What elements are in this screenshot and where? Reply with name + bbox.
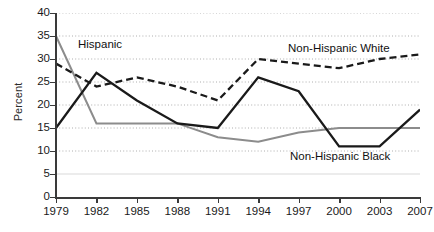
x-axis-tick (96, 198, 97, 203)
series-line-non-hispanic-black (56, 73, 420, 147)
x-tick-label: 1997 (276, 206, 322, 218)
y-tick-label: 0 (24, 191, 50, 203)
y-tick-label: 35 (24, 30, 50, 42)
y-axis-tick (50, 174, 55, 175)
y-tick-label: 20 (24, 99, 50, 111)
x-axis-tick (299, 198, 300, 203)
x-tick-label: 2003 (357, 206, 403, 218)
y-axis-title: Percent (12, 62, 24, 142)
y-axis-tick (50, 13, 55, 14)
x-axis-tick (218, 198, 219, 203)
series-label-non-hispanic-white: Non-Hispanic White (288, 42, 390, 54)
y-axis-tick (50, 128, 55, 129)
y-axis-tick (50, 59, 55, 60)
y-tick-label: 40 (24, 7, 50, 19)
y-tick-label: 5 (24, 168, 50, 180)
y-axis-line (55, 13, 57, 198)
x-tick-label: 1994 (235, 206, 281, 218)
series-label-non-hispanic-black: Non-Hispanic Black (290, 150, 390, 162)
x-axis-tick (177, 198, 178, 203)
y-tick-label: 25 (24, 76, 50, 88)
x-axis-tick (380, 198, 381, 203)
series-line-non-hispanic-white (56, 54, 420, 100)
x-axis-tick (339, 198, 340, 203)
x-axis-line (55, 197, 421, 199)
y-tick-label: 30 (24, 53, 50, 65)
x-tick-label: 1988 (154, 206, 200, 218)
y-axis-tick (50, 151, 55, 152)
x-axis-tick (56, 198, 57, 203)
y-axis-tick (50, 82, 55, 83)
y-axis-tick (50, 197, 55, 198)
x-axis-tick (258, 198, 259, 203)
x-tick-label: 2007 (397, 206, 434, 218)
y-axis-tick (50, 105, 55, 106)
x-tick-label: 1991 (195, 206, 241, 218)
y-tick-label: 10 (24, 145, 50, 157)
x-tick-label: 1979 (33, 206, 79, 218)
chart-figure: Percent 0510152025303540 197919821985198… (0, 0, 434, 232)
x-tick-label: 2000 (316, 206, 362, 218)
x-tick-label: 1982 (73, 206, 119, 218)
x-axis-tick (137, 198, 138, 203)
x-axis-tick (420, 198, 421, 203)
y-axis-tick (50, 36, 55, 37)
series-label-hispanic: Hispanic (78, 38, 122, 50)
x-tick-label: 1985 (114, 206, 160, 218)
y-tick-label: 15 (24, 122, 50, 134)
